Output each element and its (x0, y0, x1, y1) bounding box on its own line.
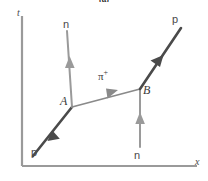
x-axis-label: x (195, 157, 199, 167)
vertex-b-label: B (143, 84, 150, 96)
incoming-neutron-line (135, 89, 145, 147)
outgoing-proton-line (140, 28, 181, 89)
exchange-pion-stroke (72, 89, 140, 107)
incoming-neutron-label: n (134, 150, 140, 161)
incoming-neutron-arrowhead (135, 112, 145, 124)
outgoing-neutron-label: n (63, 19, 69, 30)
feynman-diagram-figure: (a) t (0, 0, 208, 181)
outgoing-neutron-arrowhead (65, 56, 75, 68)
t-axis-label: t (17, 8, 20, 18)
incoming-proton-label: p (31, 147, 37, 158)
incoming-proton-line (33, 107, 72, 156)
pion-charge-superscript: + (104, 68, 109, 77)
exchange-pion-label: π+ (98, 71, 108, 82)
outgoing-neutron-stroke (67, 31, 72, 107)
outgoing-proton-label: p (172, 14, 178, 25)
exchange-pion-line (72, 89, 140, 108)
vertex-a-label: A (60, 95, 67, 107)
